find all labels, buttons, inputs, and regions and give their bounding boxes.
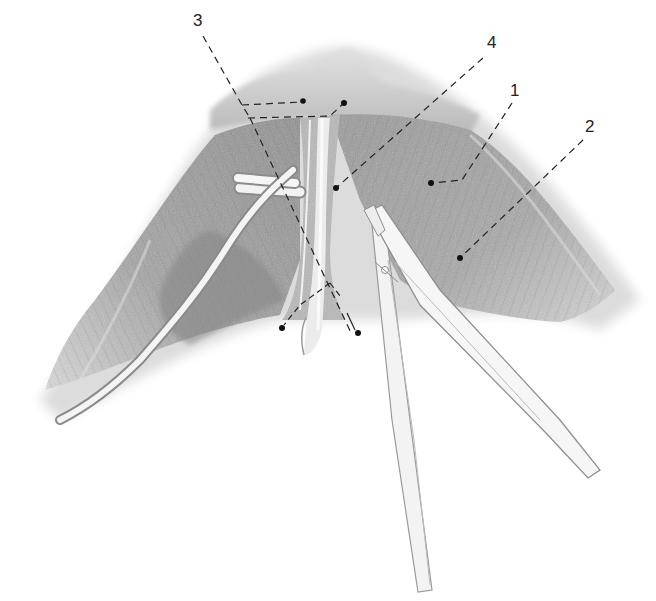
label-3: 3 [193,12,202,29]
anatomical-illustration [0,0,656,601]
label-4: 4 [487,34,496,51]
label-2: 2 [585,118,594,135]
label-1: 1 [510,82,519,99]
